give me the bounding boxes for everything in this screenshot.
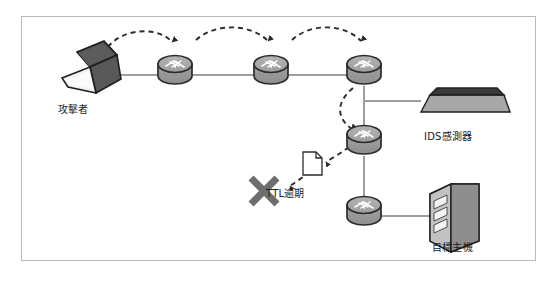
hop-curve-router3-router4 (340, 88, 353, 129)
target-host-label: 目標主機 (432, 239, 473, 254)
hop-arc-3 (292, 27, 361, 41)
router-5-icon (347, 197, 381, 226)
router-2-icon (254, 56, 288, 85)
ttl-expired-label: TTL逾期 (266, 185, 305, 200)
attacker-label: 攻擊者 (58, 101, 89, 116)
ids-sensor-icon (421, 88, 510, 112)
attacker-laptop-icon (62, 41, 121, 93)
hop-arrows (108, 27, 361, 186)
hop-arc-2 (196, 27, 268, 41)
packet-document-icon (303, 152, 322, 175)
router-3-icon (347, 56, 381, 85)
hop-arc-1 (108, 31, 172, 47)
ids-sensor-label: IDS感測器 (424, 128, 472, 143)
diagram-canvas: 攻擊者 IDS感測器 目標主機 TTL逾期 (0, 0, 558, 281)
router-1-icon (158, 56, 192, 85)
router-4-icon (347, 126, 381, 155)
hop-drop-to-ttl (326, 147, 349, 162)
network-diagram (0, 0, 558, 281)
